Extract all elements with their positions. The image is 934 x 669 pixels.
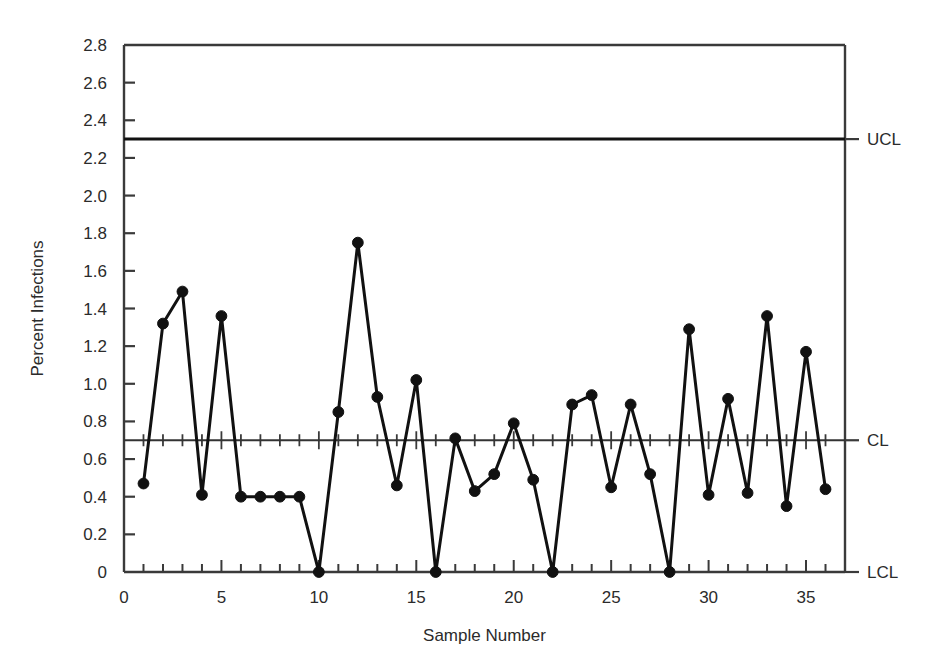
svg-text:1.2: 1.2 [83, 337, 107, 356]
svg-text:15: 15 [407, 588, 426, 607]
y-axis-title: Percent Infections [28, 240, 47, 376]
data-point [236, 491, 247, 502]
lcl-label: LCL [867, 563, 898, 582]
svg-text:2.8: 2.8 [83, 36, 107, 55]
data-series-line [143, 243, 825, 572]
data-point [313, 567, 324, 578]
svg-text:0.6: 0.6 [83, 450, 107, 469]
cl-label: CL [867, 431, 889, 450]
svg-text:5: 5 [217, 588, 226, 607]
svg-text:0: 0 [98, 563, 107, 582]
data-point [158, 318, 169, 329]
data-point [391, 480, 402, 491]
data-point [645, 469, 656, 480]
data-point [547, 567, 558, 578]
svg-text:0.8: 0.8 [83, 412, 107, 431]
svg-text:1.4: 1.4 [83, 300, 107, 319]
data-point [411, 375, 422, 386]
control-limit-lines [124, 139, 845, 440]
data-point [508, 418, 519, 429]
data-point [625, 399, 636, 410]
svg-text:2.4: 2.4 [83, 111, 107, 130]
svg-text:0.2: 0.2 [83, 525, 107, 544]
data-point [489, 469, 500, 480]
data-point [703, 489, 714, 500]
data-point [255, 491, 266, 502]
data-point [762, 311, 773, 322]
chart-text-labels: Sample NumberPercent InfectionsUCLCLLCL [28, 130, 901, 645]
x-axis-title: Sample Number [423, 626, 546, 645]
data-point [781, 501, 792, 512]
svg-text:2.0: 2.0 [83, 187, 107, 206]
svg-text:0: 0 [119, 588, 128, 607]
data-point [742, 488, 753, 499]
data-point [274, 491, 285, 502]
data-point [352, 237, 363, 248]
svg-text:30: 30 [699, 588, 718, 607]
data-point [723, 393, 734, 404]
x-axis-ticks: 05101520253035 [119, 431, 825, 607]
svg-text:20: 20 [504, 588, 523, 607]
data-point [138, 478, 149, 489]
svg-text:35: 35 [797, 588, 816, 607]
y-axis-ticks: 00.20.40.60.81.01.21.41.61.82.02.22.42.6… [83, 36, 135, 582]
svg-text:0.4: 0.4 [83, 488, 107, 507]
data-point [801, 346, 812, 357]
svg-text:1.0: 1.0 [83, 375, 107, 394]
data-point [333, 407, 344, 418]
ucl-label: UCL [867, 130, 901, 149]
data-point [586, 390, 597, 401]
data-point [469, 486, 480, 497]
data-point [684, 324, 695, 335]
data-point [197, 489, 208, 500]
data-point [820, 484, 831, 495]
svg-text:10: 10 [309, 588, 328, 607]
series-line [143, 243, 825, 572]
data-point [606, 482, 617, 493]
data-point [216, 311, 227, 322]
data-point [372, 392, 383, 403]
data-point [177, 286, 188, 297]
axes [124, 45, 845, 572]
control-chart: 00.20.40.60.81.01.21.41.61.82.02.22.42.6… [0, 0, 934, 669]
svg-text:2.6: 2.6 [83, 74, 107, 93]
chart-canvas: 00.20.40.60.81.01.21.41.61.82.02.22.42.6… [0, 0, 934, 669]
svg-text:1.6: 1.6 [83, 262, 107, 281]
data-point [430, 567, 441, 578]
svg-text:1.8: 1.8 [83, 224, 107, 243]
data-point [294, 491, 305, 502]
data-point [567, 399, 578, 410]
data-point [528, 474, 539, 485]
svg-text:2.2: 2.2 [83, 149, 107, 168]
data-point [664, 567, 675, 578]
data-point [450, 433, 461, 444]
svg-text:25: 25 [602, 588, 621, 607]
